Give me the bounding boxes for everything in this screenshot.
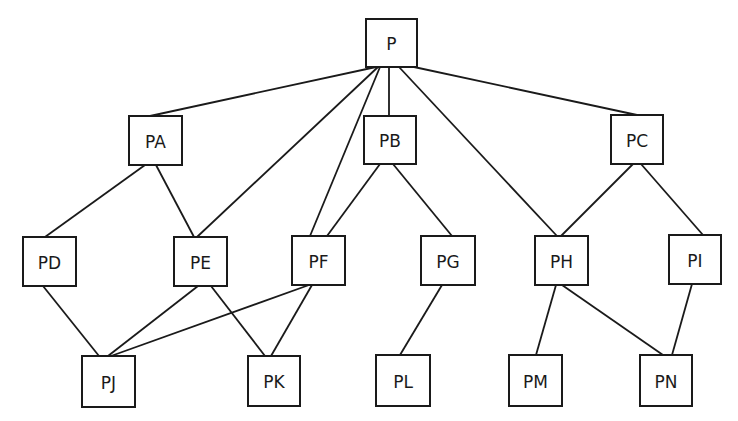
node-label: PH (550, 252, 573, 272)
node-label: PM (523, 372, 548, 392)
node-pd: PD (23, 237, 76, 286)
edge-ph-pm (536, 285, 556, 355)
node-label: PJ (101, 373, 116, 393)
edge-pa-pe (156, 165, 194, 237)
node-pi: PI (669, 235, 721, 284)
node-label: PI (687, 251, 702, 271)
node-pf: PF (292, 236, 345, 285)
edge-pe-pk (211, 286, 265, 356)
node-pm: PM (509, 355, 562, 406)
edge-ph-pn (562, 285, 663, 355)
node-pc: PC (611, 115, 663, 164)
hierarchy-diagram: PPAPBPCPDPEPFPGPHPIPJPKPLPMPN (0, 0, 738, 421)
edge-p-pc (414, 67, 637, 115)
node-pa: PA (129, 116, 182, 165)
edge-pg-pl (400, 285, 442, 355)
edge-layer (43, 67, 703, 356)
edge-pa-pd (45, 165, 145, 237)
edge-pc-ph (561, 164, 633, 236)
node-pb: PB (364, 116, 416, 164)
node-pk: PK (248, 356, 300, 406)
node-label: PG (436, 252, 459, 272)
node-ph: PH (535, 236, 588, 285)
node-label: PK (263, 372, 285, 392)
node-label: PN (655, 372, 678, 392)
edge-pi-pn (672, 284, 692, 355)
edge-p-pa (150, 67, 376, 116)
node-layer: PPAPBPCPDPEPFPGPHPIPJPKPLPMPN (23, 19, 721, 407)
edge-pd-pj (43, 286, 99, 356)
node-label: PC (626, 131, 648, 151)
node-pj: PJ (82, 356, 135, 407)
edge-pf-pj (111, 285, 309, 356)
node-label: PL (393, 372, 413, 392)
node-pg: PG (421, 236, 475, 285)
node-pl: PL (376, 355, 430, 406)
node-pe: PE (174, 237, 227, 286)
node-label: PB (379, 131, 401, 151)
edge-pc-pi (641, 164, 703, 235)
edge-p-pe (197, 67, 378, 237)
node-label: PE (190, 253, 211, 273)
node-label: P (386, 34, 396, 54)
node-p: P (366, 19, 417, 67)
node-label: PF (308, 252, 328, 272)
edge-pb-pg (393, 164, 452, 236)
node-pn: PN (640, 355, 692, 406)
node-label: PD (38, 253, 61, 273)
node-label: PA (145, 132, 166, 152)
edge-pe-pj (108, 286, 198, 356)
